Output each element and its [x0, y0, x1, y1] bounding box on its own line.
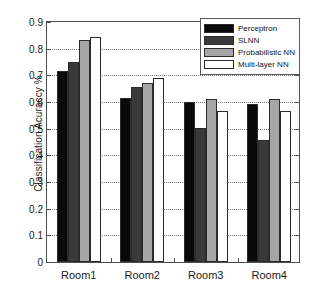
x-tick-label: Room4 [252, 269, 287, 281]
bar [79, 40, 90, 262]
bar-chart-figure: Classification Acuraccy % 00.10.20.30.40… [0, 0, 316, 292]
legend-item: SLNN [204, 35, 296, 46]
y-tick-label: 0.6 [29, 96, 43, 107]
y-tick-label: 0.4 [29, 150, 43, 161]
x-tick-label: Room1 [61, 269, 96, 281]
y-tick-label: 0.7 [29, 70, 43, 81]
legend-item: Perceptron [204, 23, 296, 34]
y-tick-label: 0.1 [29, 230, 43, 241]
x-tick-mark [238, 258, 239, 262]
legend-item: Probabilistic NN [204, 47, 296, 58]
bar [206, 99, 217, 262]
bar [217, 111, 228, 262]
legend-item: Multi-layer NN [204, 59, 296, 70]
y-tick-label: 0.5 [29, 123, 43, 134]
bar [90, 37, 101, 262]
legend: PerceptronSLNNProbabilistic NNMulti-laye… [200, 18, 300, 75]
y-tick-label: 0.3 [29, 176, 43, 187]
bar [57, 71, 68, 262]
legend-label: SLNN [238, 36, 259, 45]
bar [184, 102, 195, 262]
legend-swatch-icon [204, 24, 234, 33]
y-tick-label: 0.9 [29, 17, 43, 28]
bar [269, 99, 280, 262]
bar-group [47, 22, 111, 262]
legend-swatch-icon [204, 60, 234, 69]
legend-swatch-icon [204, 36, 234, 45]
legend-label: Perceptron [238, 24, 277, 33]
bar [131, 87, 142, 262]
bar [280, 111, 291, 262]
bar [68, 62, 79, 262]
x-tick-label: Room3 [188, 269, 223, 281]
x-tick-mark [111, 258, 112, 262]
y-tick-label: 0.2 [29, 203, 43, 214]
y-tick-label: 0 [37, 257, 43, 268]
y-tick-mark [47, 262, 51, 263]
y-tick-mark-right [295, 262, 299, 263]
bar [153, 78, 164, 262]
legend-label: Probabilistic NN [238, 48, 295, 57]
y-tick-label: 0.8 [29, 43, 43, 54]
legend-swatch-icon [204, 48, 234, 57]
bar [195, 128, 206, 262]
bar [120, 98, 131, 262]
legend-label: Multi-layer NN [238, 60, 289, 69]
bar-group [111, 22, 175, 262]
x-tick-mark [174, 258, 175, 262]
bar [258, 140, 269, 262]
bar [142, 83, 153, 262]
x-tick-label: Room2 [125, 269, 160, 281]
bar [247, 104, 258, 262]
